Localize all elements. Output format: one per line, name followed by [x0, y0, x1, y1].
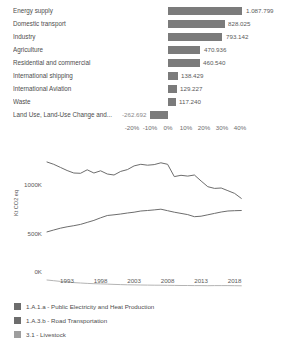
bar-row[interactable]: International shipping 138.429: [0, 69, 283, 82]
bar-row[interactable]: Domestic transport 828.025: [0, 17, 283, 30]
legend-item[interactable]: 1.A.3.b - Road Transportation: [0, 313, 283, 327]
bar-track: 470.936: [0, 43, 283, 56]
bar-row[interactable]: Industry 793.142: [0, 30, 283, 43]
legend-item-label: 1.A.1.a - Public Electricity and Heat Pr…: [26, 303, 154, 310]
x-axis-tick: 1998: [94, 277, 108, 284]
bar-value-label: 470.936: [204, 43, 226, 56]
bar-row[interactable]: Energy supply 1.087.799: [0, 4, 283, 17]
x-axis-tick: 2018: [228, 277, 242, 284]
bar-value-label: 793.142: [226, 30, 248, 43]
x-axis-tick: 2013: [194, 277, 208, 284]
x-axis-tick: 2003: [127, 277, 141, 284]
bar-axis-tick: 10%: [180, 122, 192, 134]
legend-item-label: 1.A.3.b - Road Transportation: [26, 317, 107, 324]
bar-rect[interactable]: [168, 59, 200, 67]
bar-rect[interactable]: [168, 85, 177, 93]
bar-rect[interactable]: [168, 72, 178, 80]
bar-value-label: 828.025: [228, 17, 250, 30]
bar-track: 138.429: [0, 69, 283, 82]
x-axis-tick: 1993: [60, 277, 74, 284]
bar-row[interactable]: International Aviation 129.227: [0, 82, 283, 95]
bar-row[interactable]: Land Use, Land-Use Change and... -262.69…: [0, 108, 283, 121]
x-axis-tick: 2008: [161, 277, 175, 284]
bar-track: 828.025: [0, 17, 283, 30]
emissions-time-series-line-chart: Kt CO2 eq 1000K 500K 0K 1993 1998 2003 2…: [0, 140, 283, 292]
bar-rect[interactable]: [168, 33, 222, 41]
bar-axis-tick: -20%: [125, 122, 139, 134]
bar-rect[interactable]: [168, 20, 225, 28]
bar-row[interactable]: Residential and commercial 460.540: [0, 56, 283, 69]
bar-value-label: 1.087.799: [246, 4, 274, 17]
bar-rect[interactable]: [168, 98, 176, 106]
legend-swatch-icon: [14, 317, 21, 324]
bar-rect-negative[interactable]: [150, 111, 168, 119]
series-road-transportation: [47, 209, 241, 232]
bar-axis-tick: 40%: [234, 122, 246, 134]
bar-rect[interactable]: [168, 7, 242, 15]
bar-track: 793.142: [0, 30, 283, 43]
bar-track: 460.540: [0, 56, 283, 69]
bar-axis-tick: 30%: [216, 122, 228, 134]
bar-track: -262.692: [0, 108, 283, 121]
bar-chart-x-axis: -20% -10% 0% 10% 20% 30% 40%: [0, 122, 283, 134]
series-livestock: [47, 280, 241, 286]
bar-value-label: -262.692: [122, 108, 146, 121]
bar-axis-tick: 0%: [164, 122, 173, 134]
legend-item[interactable]: 3.1 - Livestock: [0, 327, 283, 341]
emissions-by-sector-bar-chart: Energy supply 1.087.799 Domestic transpo…: [0, 0, 283, 138]
bar-rect[interactable]: [168, 46, 200, 54]
chart-legend: 1.A.1.a - Public Electricity and Heat Pr…: [0, 299, 283, 341]
legend-item[interactable]: 1.A.1.a - Public Electricity and Heat Pr…: [0, 299, 283, 313]
line-chart-plot: [0, 140, 283, 292]
series-public-electricity-heat: [47, 162, 241, 198]
bar-track: 129.227: [0, 82, 283, 95]
bar-axis-tick: 20%: [198, 122, 210, 134]
bar-value-label: 138.429: [181, 69, 203, 82]
legend-swatch-icon: [14, 331, 21, 338]
bar-row[interactable]: Waste 117.240: [0, 95, 283, 108]
legend-item-label: 3.1 - Livestock: [26, 331, 66, 338]
bar-track: 117.240: [0, 95, 283, 108]
bar-axis-tick: -10%: [143, 122, 157, 134]
bar-value-label: 460.540: [203, 56, 225, 69]
bar-row[interactable]: Agriculture 470.936: [0, 43, 283, 56]
bar-value-label: 129.227: [180, 82, 202, 95]
bar-track: 1.087.799: [0, 4, 283, 17]
legend-swatch-icon: [14, 303, 21, 310]
bar-value-label: 117.240: [179, 95, 201, 108]
